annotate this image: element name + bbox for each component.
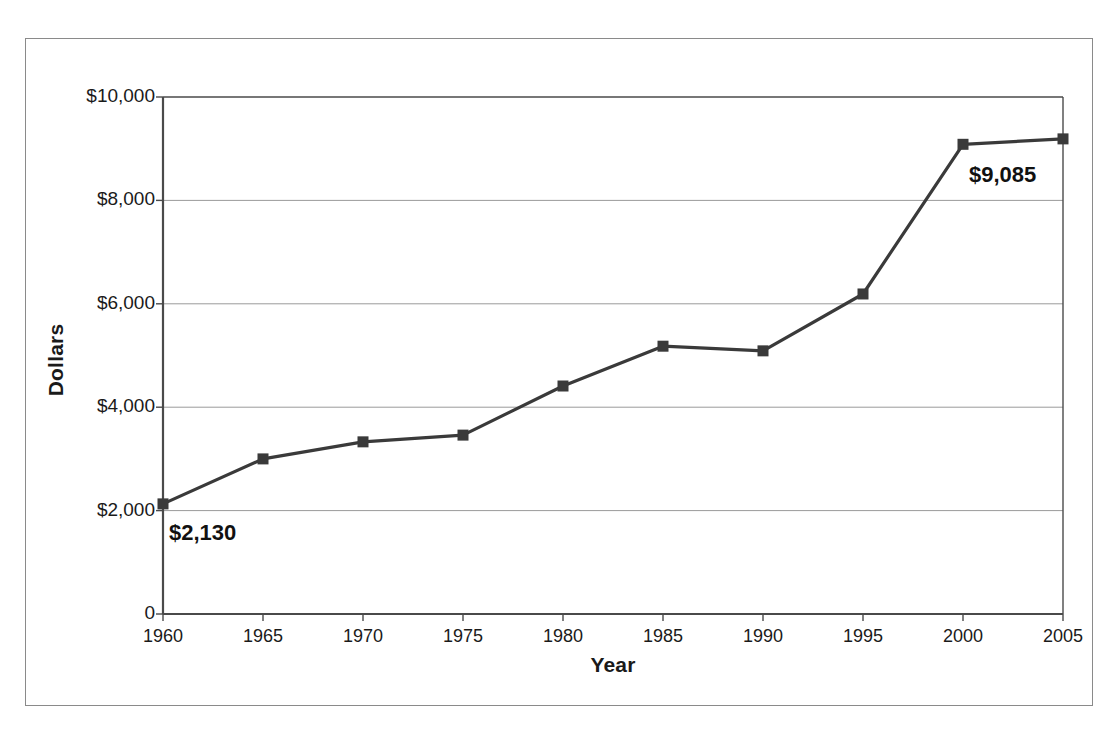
data-point-marker xyxy=(358,436,369,447)
x-axis-tick-label: 1980 xyxy=(513,626,613,647)
line-chart-plot xyxy=(0,0,1114,734)
data-point-marker xyxy=(858,288,869,299)
y-axis-title: Dollars xyxy=(44,240,68,480)
data-point-marker xyxy=(658,341,669,352)
y-axis-tick-label: $2,000 xyxy=(55,499,155,521)
data-point-marker xyxy=(258,453,269,464)
data-point-annotation: $2,130 xyxy=(169,520,236,546)
plot-background xyxy=(163,97,1063,614)
chart-figure: 0$2,000$4,000$6,000$8,000$10,000 1960196… xyxy=(0,0,1114,734)
y-axis-tick-label: $4,000 xyxy=(55,395,155,417)
x-axis-tick-label: 2000 xyxy=(913,626,1013,647)
x-axis-tick-label: 1995 xyxy=(813,626,913,647)
x-axis-title: Year xyxy=(163,653,1063,677)
data-point-annotation: $9,085 xyxy=(969,162,1036,188)
data-point-marker xyxy=(1058,133,1069,144)
data-point-marker xyxy=(458,430,469,441)
x-axis-tick-label: 1960 xyxy=(113,626,213,647)
y-axis-tick-label: $6,000 xyxy=(55,292,155,314)
x-axis-tick-label: 1970 xyxy=(313,626,413,647)
x-axis-tick-label: 1990 xyxy=(713,626,813,647)
y-axis-tick-label: 0 xyxy=(55,602,155,624)
data-point-marker xyxy=(958,139,969,150)
x-axis-tick-label: 2005 xyxy=(1013,626,1113,647)
data-point-marker xyxy=(158,498,169,509)
x-axis-tick-label: 1965 xyxy=(213,626,313,647)
data-point-marker xyxy=(758,345,769,356)
y-axis-tick-label: $10,000 xyxy=(55,85,155,107)
x-axis-tick-label: 1975 xyxy=(413,626,513,647)
y-axis-tick-label: $8,000 xyxy=(55,188,155,210)
x-axis-tick-label: 1985 xyxy=(613,626,713,647)
data-point-marker xyxy=(558,381,569,392)
